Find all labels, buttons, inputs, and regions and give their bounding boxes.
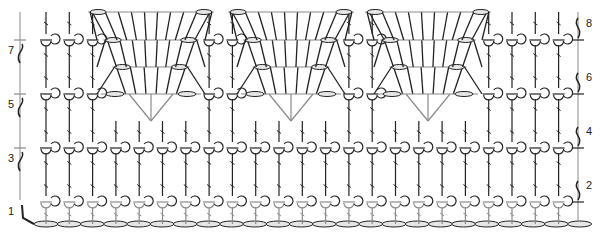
crochet-chart: 1 3 5 7 2 4 6 8: [0, 0, 606, 239]
row-label-7: 7: [8, 44, 14, 56]
row-label-5: 5: [8, 98, 14, 110]
row-label-8: 8: [586, 17, 592, 29]
row-label-3: 3: [8, 152, 14, 164]
row-label-2: 2: [586, 179, 592, 191]
row-label-6: 6: [586, 71, 592, 83]
row-label-1: 1: [8, 205, 14, 217]
row-label-4: 4: [586, 125, 592, 137]
stitch-symbols: [14, 10, 592, 228]
